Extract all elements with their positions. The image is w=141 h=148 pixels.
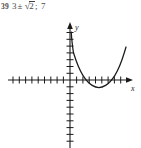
graph-canvas: x y (0, 12, 141, 148)
radical-expression: √2 (24, 0, 35, 12)
radicand-value: 2 (29, 1, 35, 11)
answer-key-figure: 393±√2; 7 (0, 0, 141, 148)
parabola-left-branch (71, 32, 73, 53)
y-axis-label: y (74, 23, 79, 32)
question-number: 39 (1, 2, 9, 11)
x-axis-label: x (130, 84, 135, 93)
solution-expression: 3±√2; 7 (12, 1, 46, 11)
second-solution-value: 7 (41, 1, 46, 11)
parabola-curve (74, 47, 127, 88)
value-separator: ; (35, 1, 38, 11)
parabola-graph: x y (0, 12, 141, 148)
solution-prefix: 3 (12, 1, 17, 11)
plus-minus-symbol: ± (18, 1, 23, 11)
